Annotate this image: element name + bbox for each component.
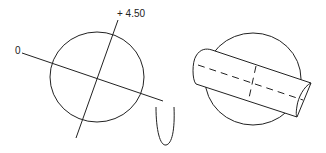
tilt-label: + 4.50	[117, 8, 146, 19]
right-figure	[193, 33, 311, 125]
zero-axis-line	[22, 53, 163, 101]
left-figure	[22, 20, 163, 138]
left-circle	[50, 32, 144, 122]
u-curve	[156, 107, 174, 145]
zero-label: 0	[15, 45, 21, 56]
diagram-canvas: 0 + 4.50	[0, 0, 326, 153]
